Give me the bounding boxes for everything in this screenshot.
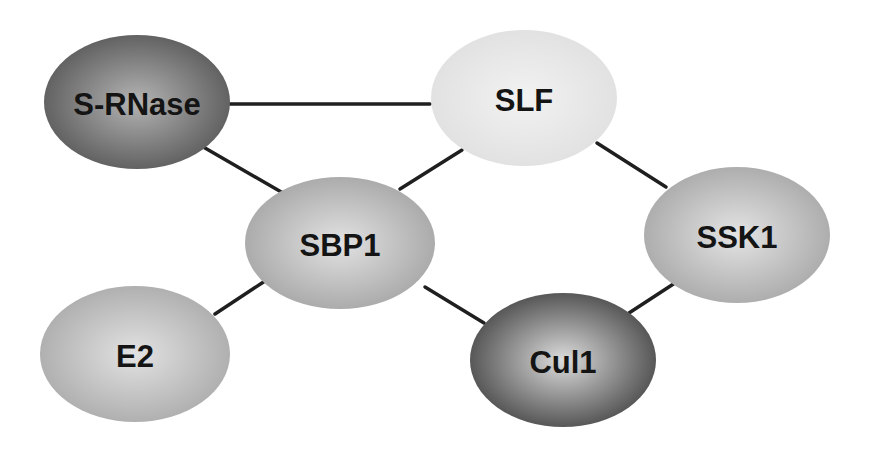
node-label: SLF bbox=[495, 83, 554, 118]
edge-srnase-sbp1 bbox=[205, 148, 283, 193]
node-label: SBP1 bbox=[300, 228, 381, 263]
edge-cul1-ssk1 bbox=[629, 281, 678, 313]
edge-sbp1-cul1 bbox=[425, 287, 484, 323]
node-label: Cul1 bbox=[529, 345, 596, 380]
node-cul1: Cul1 bbox=[470, 293, 656, 427]
node-sbp1: SBP1 bbox=[245, 177, 435, 309]
edge-slf-ssk1 bbox=[597, 143, 666, 187]
nodes-layer: S-RNaseSLFSBP1SSK1E2Cul1 bbox=[40, 30, 830, 427]
node-label: E2 bbox=[116, 339, 154, 374]
interaction-network-diagram: S-RNaseSLFSBP1SSK1E2Cul1 bbox=[0, 0, 870, 449]
node-srnase: S-RNase bbox=[44, 35, 230, 169]
node-e2: E2 bbox=[40, 286, 230, 422]
node-ssk1: SSK1 bbox=[644, 167, 830, 303]
node-slf: SLF bbox=[431, 30, 617, 166]
node-label: S-RNase bbox=[73, 87, 201, 122]
edge-slf-sbp1 bbox=[400, 150, 462, 189]
node-label: SSK1 bbox=[697, 220, 778, 255]
edge-sbp1-e2 bbox=[215, 281, 265, 314]
